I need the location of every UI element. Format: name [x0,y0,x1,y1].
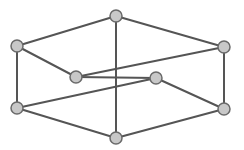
edge-top-to-right-upper [116,16,224,47]
edge-inner-right-to-left-lower [17,78,156,108]
node-inner-left [70,71,82,83]
node-inner-right [150,72,162,84]
node-left-lower [11,102,23,114]
node-right-upper [218,41,230,53]
node-left-upper [11,40,23,52]
node-top [110,10,122,22]
edge-right-lower-to-bottom [116,109,224,138]
edge-right-upper-to-inner-left [76,47,224,77]
graph-diagram [0,0,244,150]
edge-left-lower-to-bottom [17,108,116,138]
edge-top-to-left-upper [17,16,116,46]
edge-left-upper-to-inner-left [17,46,76,77]
node-right-lower [218,103,230,115]
node-bottom [110,132,122,144]
edge-inner-left-to-inner-right [76,77,156,78]
graph-edges [17,16,224,138]
edge-inner-right-to-right-lower [156,78,224,109]
